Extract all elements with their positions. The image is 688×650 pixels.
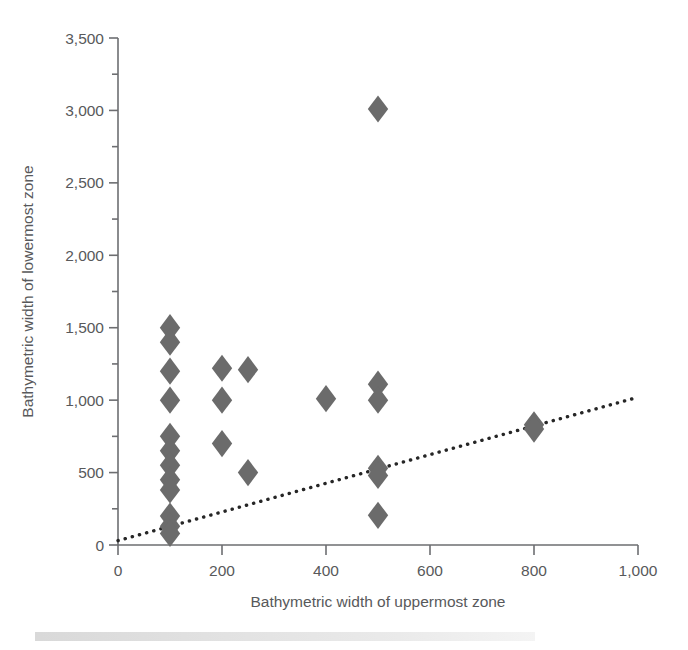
x-tick-label: 200 [209,562,235,579]
chart-canvas: 05001,0001,5002,0002,5003,0003,500 02004… [0,0,688,650]
y-tick-label: 0 [95,537,104,554]
data-point [212,387,232,414]
x-tick-label: 1,000 [619,562,658,579]
y-axis-title: Bathymetric width of lowermost zone [19,165,36,417]
data-point [368,95,388,122]
data-point [316,385,336,412]
y-tick-label: 3,000 [65,102,104,119]
y-tick-label: 1,000 [65,392,104,409]
x-axis: 02004006008001,000 [114,545,658,579]
data-point [212,355,232,382]
x-tick-label: 0 [114,562,123,579]
x-axis-title: Bathymetric width of uppermost zone [250,593,505,610]
y-tick-label: 500 [78,464,104,481]
data-point [212,430,232,457]
y-tick-label: 2,500 [65,174,104,191]
data-point [368,502,388,529]
data-point [368,387,388,414]
data-point [160,358,180,385]
data-markers [160,95,544,547]
data-point [160,329,180,356]
y-tick-label: 1,500 [65,319,104,336]
x-tick-label: 800 [521,562,547,579]
y-axis: 05001,0001,5002,0002,5003,0003,500 [65,30,118,554]
data-point [238,459,258,486]
data-point [524,416,544,443]
scatter-plot-figure: 05001,0001,5002,0002,5003,0003,500 02004… [0,0,688,650]
data-point [238,356,258,383]
x-tick-label: 400 [313,562,339,579]
x-tick-label: 600 [417,562,443,579]
page-edge-band [35,632,535,641]
data-point [160,387,180,414]
axis-titles: Bathymetric width of uppermost zoneBathy… [19,165,506,610]
y-tick-label: 3,500 [65,30,104,47]
y-tick-label: 2,000 [65,247,104,264]
